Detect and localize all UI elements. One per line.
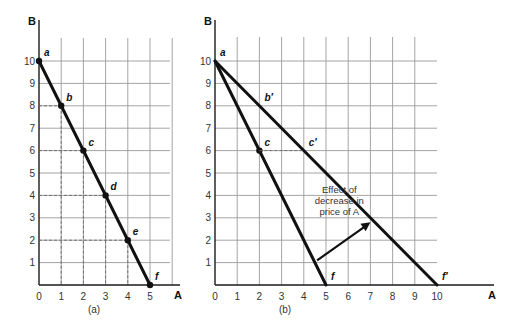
x-tick-label: 0 [36,291,42,302]
y-tick-label: 3 [205,212,211,223]
x-tick-label: 5 [147,291,153,302]
y-tick-label: 9 [29,78,35,89]
point-label: f′ [442,271,448,282]
x-tick-label: 9 [412,291,418,302]
x-tick-label: 1 [234,291,240,302]
point-label: f [331,271,336,282]
x-tick-label: 8 [390,291,396,302]
y-tick-label: 10 [24,56,36,67]
y-tick-label: 2 [205,235,211,246]
data-point [36,58,42,64]
y-tick-label: 3 [29,212,35,223]
y-tick-label: 4 [29,190,35,201]
point-label: a [44,47,50,58]
y-tick-label: 8 [205,100,211,111]
x-tick-label: 5 [323,291,329,302]
y-tick-label: 1 [205,257,211,268]
point-label: b [66,92,72,103]
point-label: c [88,137,94,148]
data-point [147,282,153,288]
data-point [80,147,86,153]
data-point [58,103,64,109]
panel-b-chart: BA01234567891012345678910(b)acfb′c′f′Eff… [200,15,496,315]
point-label: f [155,271,160,282]
data-point [102,192,108,198]
y-tick-label: 10 [200,56,212,67]
point-label: d [111,181,118,192]
point-label: a [220,47,226,58]
x-tick-label: 3 [103,291,109,302]
point-label: c′ [309,137,318,148]
data-point [125,237,131,243]
y-tick-label: 5 [205,168,211,179]
annotation-text: decrease in [315,195,364,206]
annotation-text: Effect of [322,184,357,195]
x-tick-label: 1 [58,291,64,302]
panel-caption: (b) [279,304,291,315]
y-axis-label: B [204,15,212,27]
x-tick-label: 0 [212,291,218,302]
x-tick-label: 6 [345,291,351,302]
y-tick-label: 7 [205,123,211,134]
x-tick-label: 4 [301,291,307,302]
point-label: c [264,137,270,148]
effect-arrow [317,227,364,261]
x-tick-label: 2 [257,291,263,302]
y-tick-label: 8 [29,100,35,111]
budget-line-figure: BA01234512345678910(a)abcdef BA012345678… [0,0,507,329]
y-axis-label: B [28,15,36,27]
y-tick-label: 2 [29,235,35,246]
point-label: e [133,226,139,237]
y-tick-label: 1 [29,257,35,268]
y-tick-label: 9 [205,78,211,89]
y-tick-label: 5 [29,168,35,179]
x-tick-label: 3 [279,291,285,302]
point-label: b′ [264,92,273,103]
x-tick-label: 4 [125,291,131,302]
y-tick-label: 6 [29,145,35,156]
x-tick-label: 2 [81,291,87,302]
y-tick-label: 6 [205,145,211,156]
x-tick-label: 10 [431,291,443,302]
panel-caption: (a) [88,304,100,315]
x-axis-label: A [174,289,182,301]
x-tick-label: 7 [368,291,374,302]
x-axis-label: A [488,289,496,301]
panel-a-chart: BA01234512345678910(a)abcdef [24,15,182,315]
y-tick-label: 7 [29,123,35,134]
y-tick-label: 4 [205,190,211,201]
annotation-text: price of A [320,206,360,217]
